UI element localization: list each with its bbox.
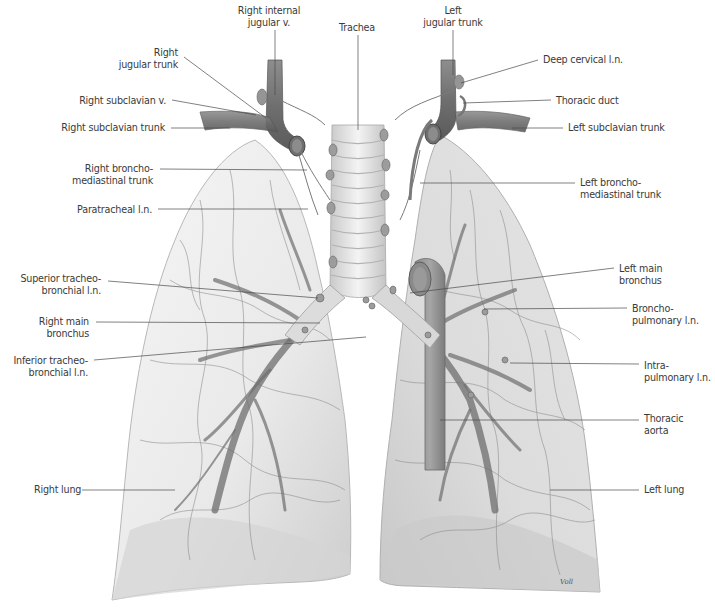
label-deep-cervical-ln: Deep cervical l.n. (543, 54, 623, 66)
label-left-bronchomediastinal-trunk: Left broncho- mediastinal trunk (580, 177, 661, 200)
label-right-main-bronchus: Right main bronchus (39, 316, 89, 339)
label-intrapulmonary-ln: Intra- pulmonary l.n. (644, 360, 711, 383)
lung-lymphatics-illustration (0, 0, 715, 608)
leader-line (184, 57, 266, 118)
label-left-main-bronchus: Left main bronchus (619, 263, 662, 286)
leader-line (160, 169, 307, 170)
label-bronchopulmonary-ln: Broncho- pulmonary l.n. (632, 303, 699, 326)
label-right-internal-jugular-v: Right internal jugular v. (238, 5, 300, 28)
label-thoracic-duct: Thoracic duct (556, 95, 619, 107)
label-right-bronchomediastinal-trunk: Right broncho- mediastinal trunk (72, 163, 153, 186)
label-right-subclavian-v: Right subclavian v. (79, 95, 166, 107)
label-left-lung: Left lung (644, 484, 684, 496)
label-left-jugular-trunk: Left jugular trunk (423, 5, 482, 28)
leader-line (463, 100, 551, 103)
label-superior-tracheobronchial-ln: Superior tracheo- bronchial l.n. (20, 273, 101, 296)
artist-signature: Voll (560, 578, 573, 586)
label-trachea: Trachea (339, 22, 375, 34)
label-paratracheal-ln: Paratracheal l.n. (77, 204, 152, 216)
label-right-lung: Right lung (34, 484, 81, 496)
label-inferior-tracheobronchial-ln: Inferior tracheo- bronchial l.n. (13, 355, 88, 378)
label-right-subclavian-trunk: Right subclavian trunk (61, 122, 165, 134)
label-thoracic-aorta: Thoracic aorta (644, 413, 683, 436)
label-right-jugular-trunk: Right jugular trunk (119, 47, 178, 70)
label-left-subclavian-trunk: Left subclavian trunk (568, 122, 665, 134)
leader-line (461, 60, 538, 83)
